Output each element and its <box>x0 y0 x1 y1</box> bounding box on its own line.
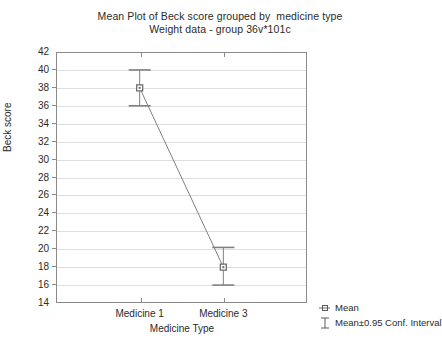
mean-marker-icon <box>318 301 332 315</box>
y-tick-mark <box>52 248 56 249</box>
y-tick-label: 20 <box>38 243 49 254</box>
x-tick-label: Medicine 3 <box>199 308 247 319</box>
y-tick-label: 14 <box>38 297 49 308</box>
x-tick-label: Medicine 1 <box>115 308 163 319</box>
y-tick-label: 42 <box>38 46 49 57</box>
x-tick-mark-top <box>224 53 225 57</box>
y-tick-mark <box>52 230 56 231</box>
y-tick-label: 16 <box>38 279 49 290</box>
gridline <box>57 249 306 250</box>
gridline <box>57 231 306 232</box>
y-tick-label: 32 <box>38 136 49 147</box>
legend-label-conf-interval: Mean±0.95 Conf. Interval <box>335 318 442 328</box>
legend-item-conf-interval: Mean±0.95 Conf. Interval <box>318 315 442 330</box>
gridline <box>57 124 306 125</box>
y-tick-mark <box>52 159 56 160</box>
y-tick-mark <box>52 141 56 142</box>
y-tick-mark <box>52 177 56 178</box>
y-tick-mark <box>52 87 56 88</box>
y-tick-label: 22 <box>38 225 49 236</box>
y-tick-label: 34 <box>38 118 49 129</box>
legend-item-mean: Mean <box>318 300 442 315</box>
x-axis-title: Medicine Type <box>150 323 214 334</box>
y-tick-label: 40 <box>38 64 49 75</box>
y-tick-mark <box>52 284 56 285</box>
chart-title: Mean Plot of Beck score grouped by medic… <box>0 10 440 23</box>
y-tick-label: 38 <box>38 82 49 93</box>
gridline <box>57 88 306 89</box>
y-tick-label: 28 <box>38 172 49 183</box>
gridline <box>57 106 306 107</box>
gridline <box>57 178 306 179</box>
y-tick-mark <box>52 105 56 106</box>
gridline <box>57 195 306 196</box>
y-tick-mark <box>52 123 56 124</box>
legend-label-mean: Mean <box>335 303 359 313</box>
chart-title-block: Mean Plot of Beck score grouped by medic… <box>0 10 440 36</box>
y-tick-mark <box>52 212 56 213</box>
gridline <box>57 160 306 161</box>
legend: Mean Mean±0.95 Conf. Interval <box>318 300 442 330</box>
gridline <box>57 267 306 268</box>
x-tick-mark-bottom <box>224 298 225 302</box>
x-tick-mark-top <box>141 53 142 57</box>
gridline <box>57 70 306 71</box>
y-tick-label: 26 <box>38 189 49 200</box>
y-tick-label: 24 <box>38 207 49 218</box>
gridline <box>57 213 306 214</box>
y-axis-title: Beck score <box>2 103 13 152</box>
conf-interval-icon <box>318 316 332 330</box>
y-tick-mark <box>52 194 56 195</box>
y-tick-label: 18 <box>38 261 49 272</box>
gridline <box>57 142 306 143</box>
chart-subtitle: Weight data - group 36v*101c <box>0 23 440 36</box>
y-tick-label: 30 <box>38 154 49 165</box>
gridline <box>57 285 306 286</box>
y-tick-mark <box>52 69 56 70</box>
y-tick-mark <box>52 266 56 267</box>
x-tick-mark-bottom <box>141 298 142 302</box>
y-tick-label: 36 <box>38 100 49 111</box>
plot-area <box>56 52 307 303</box>
